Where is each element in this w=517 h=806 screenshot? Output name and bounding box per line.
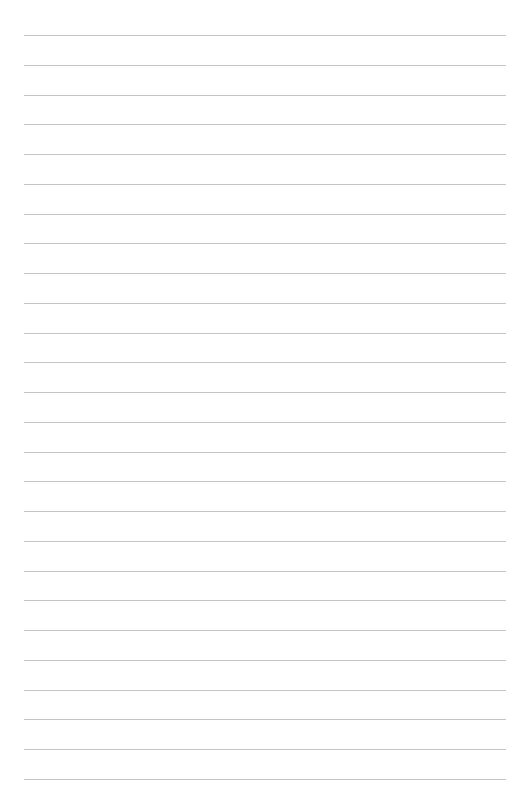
ruled-line <box>24 600 506 601</box>
ruled-line <box>24 362 506 363</box>
ruled-line <box>24 481 506 482</box>
ruled-line <box>24 124 506 125</box>
ruled-line <box>24 630 506 631</box>
ruled-line <box>24 333 506 334</box>
ruled-line <box>24 95 506 96</box>
ruled-line <box>24 273 506 274</box>
ruled-line <box>24 243 506 244</box>
ruled-line <box>24 541 506 542</box>
ruled-line <box>24 154 506 155</box>
ruled-line <box>24 35 506 36</box>
ruled-line <box>24 719 506 720</box>
ruled-line <box>24 779 506 780</box>
ruled-line <box>24 660 506 661</box>
ruled-line <box>24 690 506 691</box>
lined-paper-page <box>0 0 517 806</box>
ruled-line <box>24 214 506 215</box>
ruled-line <box>24 452 506 453</box>
ruled-line <box>24 749 506 750</box>
ruled-line <box>24 571 506 572</box>
ruled-line <box>24 422 506 423</box>
ruled-line <box>24 511 506 512</box>
ruled-line <box>24 303 506 304</box>
ruled-line <box>24 184 506 185</box>
ruled-line <box>24 392 506 393</box>
ruled-line <box>24 65 506 66</box>
